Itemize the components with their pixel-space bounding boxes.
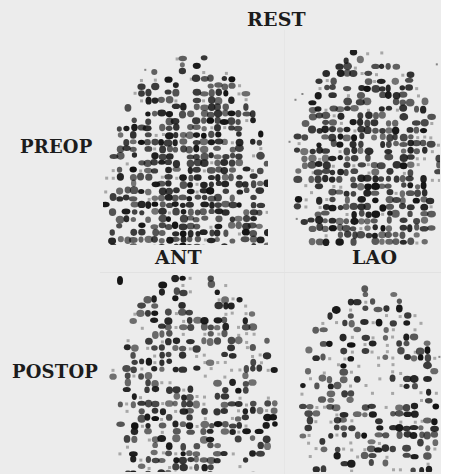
scan-panel-postop-ant [103,275,278,472]
row-label-postop: POSTOP [12,361,98,382]
column-header-rest: REST [247,8,306,30]
panel-divider-horizontal [100,272,441,273]
scan-panel-preop-ant [103,55,268,245]
panel-divider-vertical [284,30,285,474]
scintigraphy-figure: REST PREOP POSTOP ANT LAO [0,0,441,474]
view-label-ant: ANT [155,246,202,268]
scan-panel-postop-lao [292,285,442,472]
view-label-lao: LAO [352,246,397,268]
row-label-preop: PREOP [20,136,92,157]
orientation-marker-dot [117,276,123,285]
scan-panel-preop-lao [288,50,440,246]
